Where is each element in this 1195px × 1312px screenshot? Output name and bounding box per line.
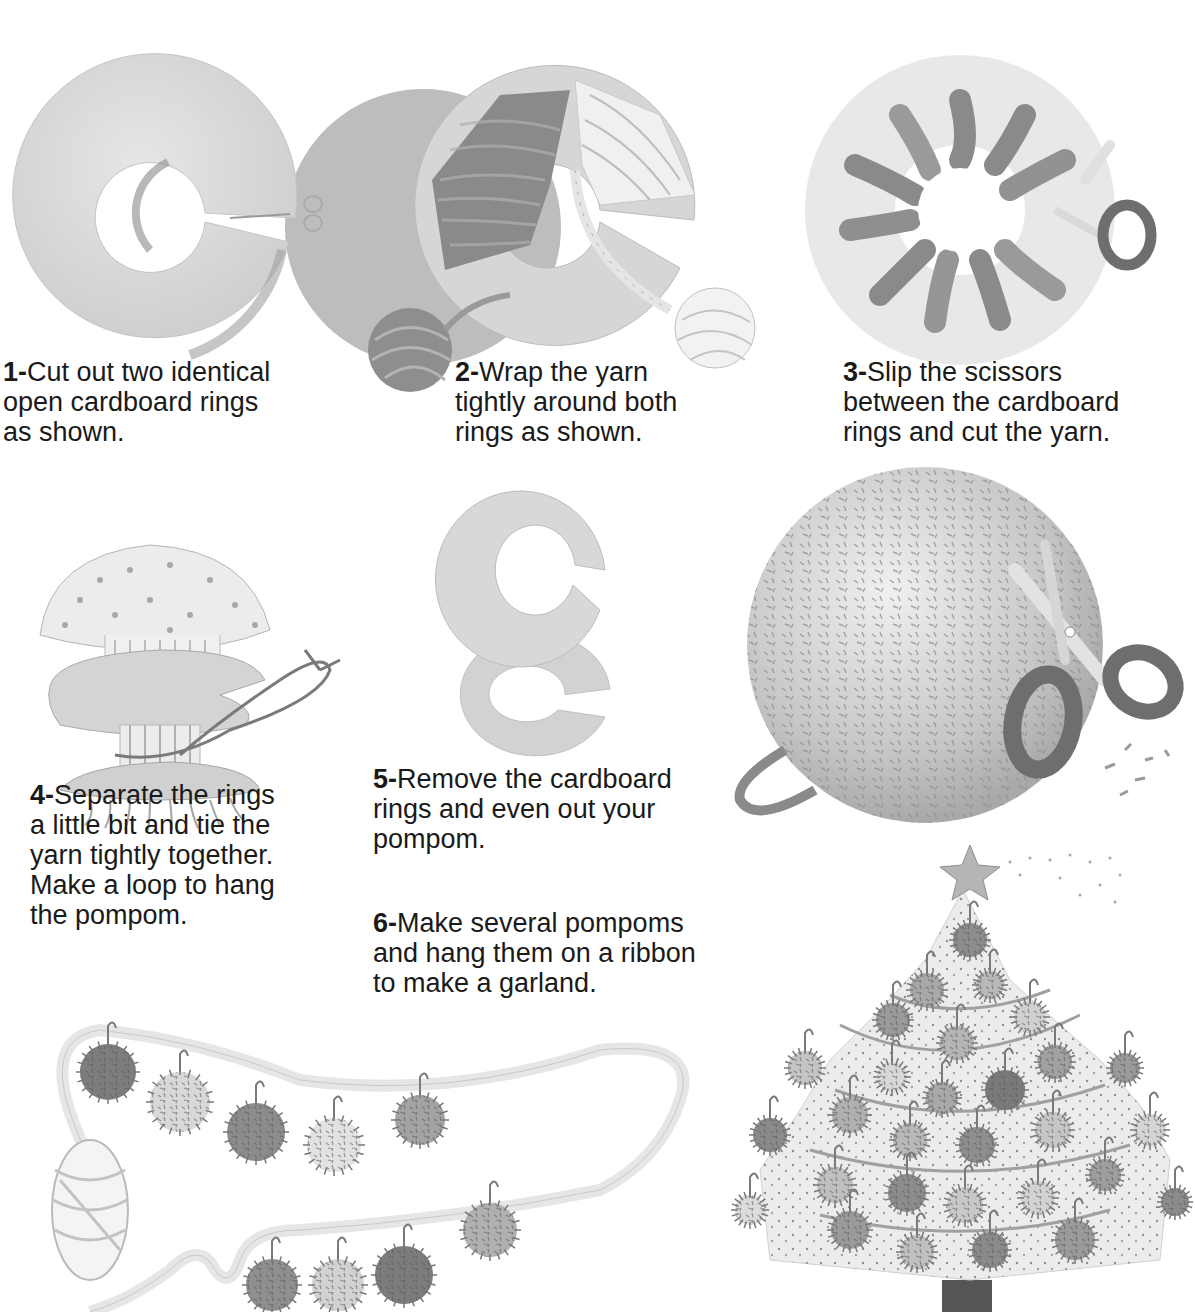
step-number: 1-: [3, 357, 27, 387]
step-line: pompom.: [373, 824, 486, 854]
step-4-text: 4-Separate the rings a little bit and ti…: [30, 780, 360, 930]
step-3-text: 3-Slip the scissors between the cardboar…: [843, 357, 1187, 447]
separated-rings-icon: [425, 465, 645, 715]
step-number: 2-: [455, 357, 479, 387]
step-number: 6-: [373, 908, 397, 938]
pompom-garland-icon: [0, 1020, 720, 1312]
star-icon: [940, 845, 1000, 900]
yarn-wrapped-ring-icon: [360, 60, 760, 400]
step-line: Separate the rings: [54, 780, 275, 810]
step-5-text: 5-Remove the cardboard rings and even ou…: [373, 764, 743, 854]
step-line: rings and cut the yarn.: [843, 417, 1110, 447]
cut-yarn-ring-icon: [810, 60, 1190, 360]
step-line: Wrap the yarn: [479, 357, 648, 387]
step-line: between the cardboard: [843, 387, 1119, 417]
step-number: 4-: [30, 780, 54, 810]
step-number: 5-: [373, 764, 397, 794]
step-line: Make several pompoms: [397, 908, 684, 938]
pompom-icon: [146, 1050, 214, 1136]
decorated-tree-icon: [720, 840, 1187, 1312]
step-line: rings as shown.: [455, 417, 643, 447]
pompom-with-scissors-icon: [725, 450, 1195, 830]
pompom-icon: [223, 1081, 289, 1165]
step-6-text: 6-Make several pompoms and hang them on …: [373, 908, 753, 998]
step-line: as shown.: [3, 417, 125, 447]
pompom-icon: [303, 1096, 365, 1176]
pompom-icon: [459, 1181, 521, 1261]
step-line: Slip the scissors: [867, 357, 1062, 387]
step-line: open cardboard rings: [3, 387, 258, 417]
step-line: tightly around both: [455, 387, 677, 417]
step-line: rings and even out your: [373, 794, 655, 824]
pompom-icon: [308, 1237, 368, 1312]
step-number: 3-: [843, 357, 867, 387]
step-2-text: 2-Wrap the yarn tightly around both ring…: [455, 357, 775, 447]
step-line: Cut out two identical: [27, 357, 270, 387]
step-line: and hang them on a ribbon: [373, 938, 696, 968]
step-line: to make a garland.: [373, 968, 597, 998]
step-line: Remove the cardboard: [397, 764, 672, 794]
pompom-icon: [371, 1224, 437, 1308]
step-line: a little bit and tie the: [30, 810, 270, 840]
step-1-text: 1-Cut out two identical open cardboard r…: [3, 357, 363, 447]
step-line: yarn tightly together.: [30, 840, 273, 870]
step-line: the pompom.: [30, 900, 188, 930]
cardboard-ring-icon: [0, 0, 400, 400]
step-line: Make a loop to hang: [30, 870, 275, 900]
